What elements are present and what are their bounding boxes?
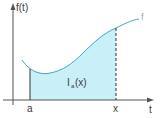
y-axis-label: f(t) [16,2,28,13]
upper-bound-label: x [113,103,118,114]
area-label-argument: (x) [75,77,87,88]
area-label-main: I [67,77,70,88]
x-axis-arrow-icon [147,98,154,103]
x-axis-label: t [149,104,152,115]
y-axis-arrow-icon [11,3,16,10]
curve-label: f [141,12,144,22]
integral-diagram: f(t) t f a x I a (x) [0,0,163,118]
lower-bound-label: a [27,103,33,114]
shaded-area [30,28,116,100]
